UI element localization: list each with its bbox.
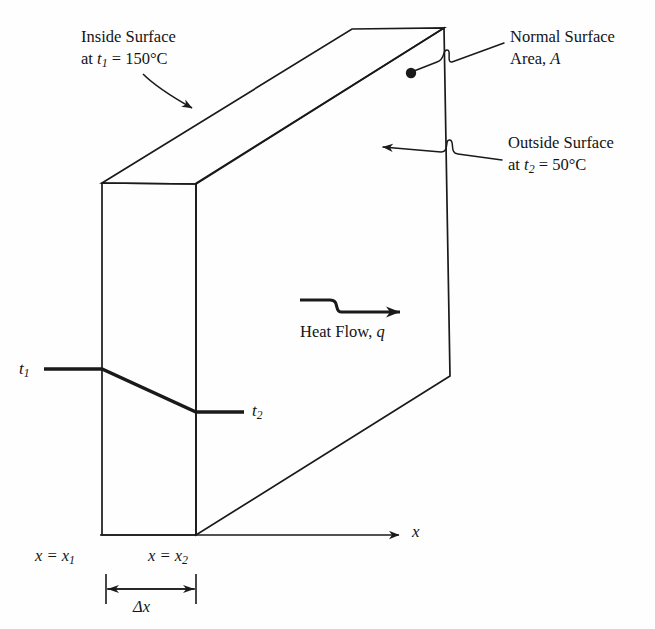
x1-subscript: 1 [69,553,75,567]
heat-flow-arrow [300,300,400,312]
t2-label: t2 [252,400,263,423]
x2-position-label: x = x2 [148,545,188,569]
x1-symbol: x [62,546,69,565]
inside-surface-value: = 150°C [108,49,168,68]
wall-outside-face [196,28,450,535]
heat-flow-prefix: Heat Flow, [300,322,376,341]
diagram-canvas [0,0,655,629]
normal-surface-area-label: Normal Surface Area, A [510,26,615,70]
normal-area-prefix: Area, [510,49,550,68]
inside-surface-line2: at t1 = 150°C [81,48,176,72]
x2-symbol: x [175,546,182,565]
delta-x-dimension [106,574,196,604]
outside-surface-label: Outside Surface at t2 = 50°C [508,132,614,178]
outside-surface-prefix: at [508,155,524,174]
normal-area-symbol: A [550,49,560,68]
outside-surface-line2: at t2 = 50°C [508,154,614,178]
t2-subscript: 2 [257,409,263,421]
heat-flow-label: Heat Flow, q [300,321,385,343]
x1-position-label: x = x1 [35,545,75,569]
temperature-profile-line [44,369,244,412]
normal-area-point-dot [406,68,416,78]
inside-surface-prefix: at [81,49,97,68]
outside-surface-leader [383,140,502,160]
x2-subscript: 2 [182,553,188,567]
heat-conduction-diagram: Inside Surface at t1 = 150°C Normal Surf… [0,0,655,629]
x-axis-label: x [412,521,420,543]
t1-subscript: 1 [24,367,30,379]
delta-x-symbol: Δx [133,597,150,616]
x2-prefix: x = [148,546,175,565]
x-axis-symbol: x [412,522,420,541]
inside-surface-label: Inside Surface at t1 = 150°C [81,26,176,72]
x1-prefix: x = [35,546,62,565]
normal-area-line2: Area, A [510,48,615,70]
normal-area-leader [406,43,504,78]
inside-surface-leader [143,74,192,108]
t1-label: t1 [19,358,30,381]
outside-surface-line1: Outside Surface [508,132,614,154]
heat-flow-symbol: q [376,322,384,341]
normal-area-line1: Normal Surface [510,26,615,48]
wall-block [102,28,450,535]
delta-x-label: Δx [133,596,150,618]
outside-surface-value: = 50°C [535,155,587,174]
inside-surface-line1: Inside Surface [81,26,176,48]
wall-front-face [102,183,196,535]
